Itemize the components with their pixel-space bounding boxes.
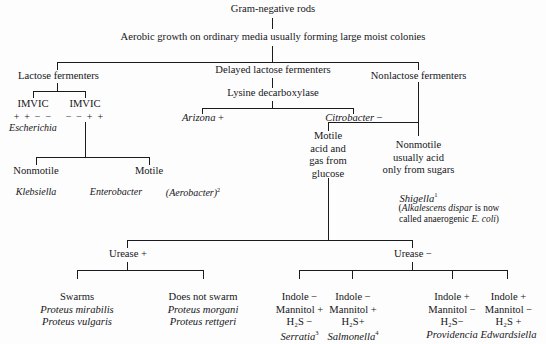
nonlactose-fermenters-label: Nonlactose fermenters — [352, 70, 485, 83]
urease-positive-label: Urease + — [97, 248, 159, 261]
connector-to-serratia — [299, 270, 300, 279]
escherichia-genus: Escherichia — [5, 122, 61, 134]
connector-root-to-level1 — [272, 18, 273, 29]
node-nonmotile-klebsiella: Nonmotile — [1, 165, 71, 178]
node-urease-negative: Urease − — [382, 248, 444, 261]
connector-to-motile — [149, 157, 150, 165]
connector-to-urease-positive — [127, 240, 128, 248]
klebsiella-genus: Klebsiella — [1, 186, 71, 198]
proteus-rettgeri: Proteus rettgeri — [152, 316, 254, 329]
aerobacter-footnote-marker: 2 — [217, 186, 220, 193]
node-aerobacter-synonym: (Aerobacter)2 — [156, 186, 230, 199]
imvic-right-signs: − − + + — [57, 111, 113, 123]
connector-to-nonlactose — [418, 62, 419, 70]
lysine-decarboxylase-label: Lysine decarboxylase — [198, 87, 348, 100]
dichotomous-key-diagram: Gram-negative rods Aerobic growth on ord… — [0, 0, 546, 344]
nonmotile-acid-line1: Nonmotile — [362, 139, 475, 152]
connector-imvic-right-stem — [85, 122, 86, 158]
connector-level1-stem — [272, 46, 273, 63]
node-level1: Aerobic growth on ordinary media usually… — [0, 31, 546, 44]
shigella-note-line2-post: ) — [496, 214, 499, 224]
lactose-fermenters-label: Lactose fermenters — [0, 70, 117, 83]
salmonella-footnote-marker: 4 — [375, 329, 378, 336]
node-motile-acid-gas-glucose: Motile acid and gas from glucose — [296, 130, 360, 180]
node-root: Gram-negative rods — [0, 3, 546, 16]
connector-to-swarms — [77, 270, 78, 279]
nonmotile-acid-line2: usually acid — [362, 152, 475, 165]
nonmotile-acid-line3: only from sugars — [362, 164, 475, 177]
delayed-lactose-fermenters-label: Delayed lactose fermenters — [188, 64, 358, 77]
node-shigella-note: (Alkalescens dispar is now called anaero… — [354, 203, 544, 225]
connector-urease-bar — [127, 240, 413, 241]
nonmotile-label: Nonmotile — [1, 165, 71, 178]
shigella-note-line1-rest: is now — [472, 203, 499, 213]
motile-gas-line1: Motile — [296, 130, 360, 143]
motile-gas-line2: acid and — [296, 143, 360, 156]
salmonella-indole: Indole − — [318, 291, 388, 304]
edwardsiella-h2s: H₂S + — [471, 316, 546, 329]
level1-label: Aerobic growth on ordinary media usually… — [0, 31, 546, 44]
node-enterobacter: Enterobacter — [76, 186, 156, 198]
node-lysine-decarboxylase: Lysine decarboxylase — [198, 87, 348, 100]
imvic-left-label: IMVIC — [5, 98, 61, 111]
connector-to-nonmotile-acid — [418, 122, 419, 136]
does-not-swarm-heading: Does not swarm — [152, 291, 254, 304]
connector-nonlactose-stem — [418, 82, 419, 123]
connector-urease-positive-bar — [77, 270, 204, 271]
connector-lysine-bar — [202, 108, 354, 109]
arizona-genus: Arizona — [182, 112, 216, 123]
connector-to-urease-negative — [412, 240, 413, 248]
edwardsiella-mannitol: Mannitol − — [471, 304, 546, 317]
motile-gas-line3: gas from — [296, 155, 360, 168]
alkalescens-dispar-name: Alkalescens dispar — [402, 203, 473, 213]
node-lactose-fermenters: Lactose fermenters — [0, 70, 117, 83]
node-salmonella-group: Indole − Mannitol + H₂S+ Salmonella4 — [318, 291, 388, 343]
connector-to-does-not-swarm — [203, 270, 204, 279]
connector-to-providencia — [452, 270, 453, 279]
node-klebsiella: Klebsiella — [1, 186, 71, 198]
node-motile-enterobacter: Motile — [114, 165, 184, 178]
urease-negative-label: Urease − — [382, 248, 444, 261]
connector-to-nonmotile — [36, 157, 37, 165]
connector-to-lactose — [57, 62, 58, 70]
proteus-morgani: Proteus morgani — [152, 304, 254, 317]
imvic-left-signs: + + − − — [5, 111, 61, 123]
shigella-note-line2-pre: called anaerogenic — [399, 214, 471, 224]
node-imvic-negative: IMVIC − − + + — [57, 98, 113, 122]
node-nonmotile-acid-sugars: Nonmotile usually acid only from sugars — [362, 139, 475, 177]
connector-to-salmonella — [352, 270, 353, 279]
node-delayed-lactose-fermenters: Delayed lactose fermenters — [188, 64, 358, 77]
swarms-heading: Swarms — [26, 291, 128, 304]
edwardsiella-genus: Edwardsiella — [471, 329, 546, 342]
salmonella-mannitol: Mannitol + — [318, 304, 388, 317]
connector-nonlactose-bar — [328, 122, 419, 123]
serratia-genus: Serratia — [280, 330, 315, 341]
connector-glucose-to-urease — [328, 178, 329, 241]
salmonella-genus: Salmonella — [328, 330, 376, 341]
node-swarms-group: Swarms Proteus mirabilis Proteus vulgari… — [26, 291, 128, 329]
aerobacter-synonym: (Aerobacter) — [166, 187, 217, 198]
shigella-footnote-marker: 1 — [434, 191, 437, 198]
node-edwardsiella-group: Indole + Mannitol − H₂S + Edwardsiella — [471, 291, 546, 341]
connector-to-edwardsiella — [507, 270, 508, 279]
root-label: Gram-negative rods — [0, 3, 546, 16]
node-does-not-swarm-group: Does not swarm Proteus morgani Proteus r… — [152, 291, 254, 329]
proteus-mirabilis: Proteus mirabilis — [26, 304, 128, 317]
motile-label: Motile — [114, 165, 184, 178]
connector-urease-negative-bar — [299, 270, 508, 271]
connector-to-imvic-left — [33, 91, 34, 98]
enterobacter-genus: Enterobacter — [76, 186, 156, 198]
node-arizona: Arizona + — [165, 112, 241, 125]
node-nonlactose-fermenters: Nonlactose fermenters — [352, 70, 485, 83]
ecoli-name: E. coli — [471, 214, 495, 224]
proteus-vulgaris: Proteus vulgaris — [26, 316, 128, 329]
arizona-sign: + — [218, 112, 224, 123]
connector-lactose-bar — [33, 91, 86, 92]
shigella-genus: Shigella — [399, 193, 434, 204]
connector-motility-bar — [36, 157, 150, 158]
salmonella-h2s: H₂S+ — [318, 316, 388, 329]
node-urease-positive: Urease + — [97, 248, 159, 261]
imvic-right-label: IMVIC — [57, 98, 113, 111]
connector-to-imvic-right — [85, 91, 86, 98]
edwardsiella-indole: Indole + — [471, 291, 546, 304]
